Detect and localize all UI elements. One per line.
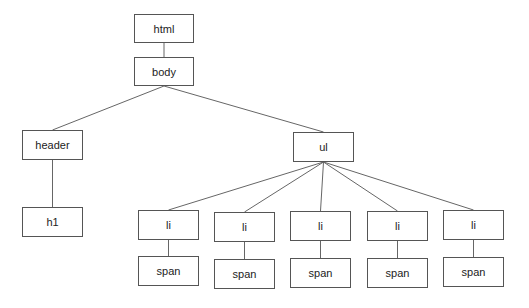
node-label: li — [395, 220, 400, 232]
node-h1: h1 — [22, 207, 83, 237]
node-header: header — [22, 130, 83, 160]
node-span4: span — [367, 258, 428, 288]
node-li5: li — [443, 210, 504, 240]
node-span2: span — [214, 259, 275, 289]
node-label: li — [242, 221, 247, 233]
node-label: html — [154, 23, 175, 35]
edge-ul-li3 — [321, 162, 324, 211]
edge-ul-li5 — [324, 162, 474, 210]
node-label: ul — [319, 141, 328, 153]
node-li1: li — [138, 210, 199, 240]
node-li3: li — [290, 211, 351, 241]
node-label: span — [157, 265, 181, 277]
node-label: span — [233, 268, 257, 280]
dom-tree-diagram: htmlbodyheaderh1ullililililispanspanspan… — [0, 0, 529, 308]
node-label: body — [152, 66, 176, 78]
node-label: li — [166, 219, 171, 231]
node-html: html — [134, 14, 194, 43]
node-span1: span — [138, 256, 199, 286]
node-span3: span — [290, 258, 351, 288]
edge-ul-li1 — [169, 162, 324, 210]
node-label: span — [386, 267, 410, 279]
edge-body-header — [53, 86, 165, 130]
node-label: header — [35, 139, 69, 151]
node-ul: ul — [293, 132, 354, 162]
node-li4: li — [367, 211, 428, 241]
node-label: h1 — [46, 216, 58, 228]
node-li2: li — [214, 212, 275, 242]
node-span5: span — [443, 257, 504, 287]
node-body: body — [134, 57, 194, 86]
edge-ul-li4 — [324, 162, 398, 211]
node-label: li — [318, 220, 323, 232]
edge-body-ul — [164, 86, 324, 132]
node-label: span — [309, 267, 333, 279]
edge-ul-li2 — [245, 162, 324, 212]
node-label: span — [462, 266, 486, 278]
node-label: li — [471, 219, 476, 231]
